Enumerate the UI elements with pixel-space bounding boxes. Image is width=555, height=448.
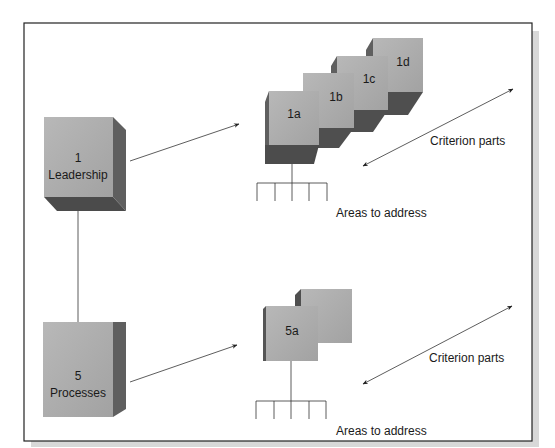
diagram-canvas: 1 Leadership 5 Processes 1d 1c 1b 1a [0,0,555,448]
leadership-number: 1 [75,151,82,165]
cube-1b-label: 1b [329,90,343,104]
leadership-label: Leadership [48,168,108,182]
cube-1a-label: 1a [287,107,301,121]
criterion-cube-5a: 5a [263,306,318,361]
upper-areas-label: Areas to address [336,206,427,220]
leadership-box: 1 Leadership [44,117,126,211]
criterion-cube-1a: 1a [265,91,319,164]
cube-1d-label: 1d [396,55,409,69]
processes-box: 5 Processes [43,322,126,417]
cube-1c-label: 1c [363,72,376,86]
processes-label: Processes [50,386,106,400]
cube-5a-label: 5a [285,324,299,338]
lower-criterion-label: Criterion parts [429,351,504,365]
lower-areas-label: Areas to address [336,424,427,438]
processes-number: 5 [75,369,82,383]
diagram-svg: 1 Leadership 5 Processes 1d 1c 1b 1a [0,0,555,448]
upper-criterion-label: Criterion parts [430,134,505,148]
